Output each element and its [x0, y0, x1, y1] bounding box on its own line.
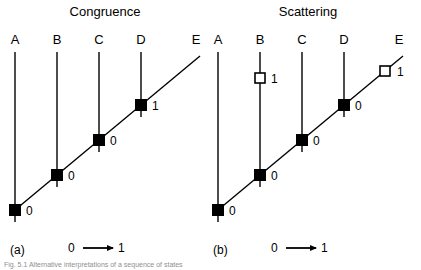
figure-container: CongruenceABCDE0001(a)01ScatteringABCDE0… — [0, 0, 421, 270]
panel-title-b: Scattering — [279, 4, 338, 19]
panel-a: CongruenceABCDE0001(a)01 — [10, 4, 201, 257]
state-value-b-D-3: 0 — [355, 99, 362, 113]
state-marker-b-B-closed-1[interactable] — [255, 170, 266, 181]
node-label-b-B: B — [256, 32, 265, 47]
node-label-a-D: D — [136, 32, 145, 47]
diagonal-line-b — [218, 56, 403, 210]
state-value-b-C-2: 0 — [313, 134, 320, 148]
state-value-a-A-0: 0 — [26, 204, 33, 218]
figure-caption: Fig. 5.1 Alternative interpretations of … — [4, 261, 183, 269]
panel-tag-b: (b) — [213, 243, 228, 257]
panel-b: ScatteringABCDE000011(b)01 — [213, 4, 405, 257]
node-label-b-D: D — [339, 32, 348, 47]
node-label-b-E: E — [395, 32, 404, 47]
state-marker-a-D-closed-3[interactable] — [136, 100, 147, 111]
legend-to-b: 1 — [321, 241, 328, 255]
state-value-a-D-3: 1 — [152, 99, 159, 113]
state-value-b-E-5: 1 — [397, 65, 404, 79]
panel-tag-a: (a) — [10, 243, 25, 257]
node-label-b-C: C — [297, 32, 306, 47]
legend-from-a: 0 — [68, 241, 75, 255]
state-value-b-B-1: 0 — [271, 169, 278, 183]
state-marker-b-D-closed-3[interactable] — [339, 100, 350, 111]
legend-from-b: 0 — [271, 241, 278, 255]
state-value-a-C-2: 0 — [110, 134, 117, 148]
state-marker-b-C-closed-2[interactable] — [297, 135, 308, 146]
state-marker-a-C-closed-2[interactable] — [94, 135, 105, 146]
node-label-a-A: A — [11, 32, 20, 47]
figure-caption-strip: Fig. 5.1 Alternative interpretations of … — [0, 261, 421, 270]
legend-to-a: 1 — [118, 241, 125, 255]
state-marker-b-B-open-4[interactable] — [255, 73, 265, 83]
node-label-b-A: A — [214, 32, 223, 47]
state-value-b-A-0: 0 — [229, 204, 236, 218]
node-label-a-B: B — [53, 32, 62, 47]
panel-title-a: Congruence — [70, 4, 141, 19]
node-label-a-C: C — [94, 32, 103, 47]
state-marker-a-B-closed-1[interactable] — [52, 170, 63, 181]
state-marker-b-E-open-5[interactable] — [380, 66, 390, 76]
state-value-b-B-4: 1 — [271, 72, 278, 86]
state-marker-b-A-closed-0[interactable] — [213, 205, 224, 216]
diagonal-line-a — [15, 56, 200, 210]
state-value-a-B-1: 0 — [68, 169, 75, 183]
node-label-a-E: E — [192, 32, 201, 47]
state-marker-a-A-closed-0[interactable] — [10, 205, 21, 216]
figure-svg: CongruenceABCDE0001(a)01ScatteringABCDE0… — [0, 0, 421, 270]
